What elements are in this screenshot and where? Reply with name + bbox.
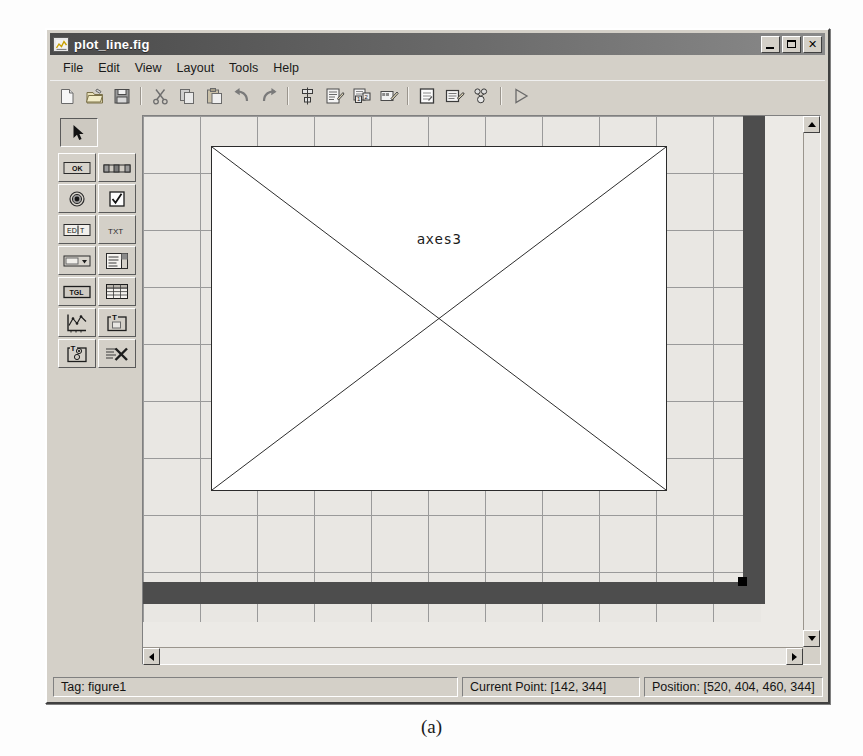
svg-text:OK: OK: [72, 165, 83, 172]
tab-order-editor-icon[interactable]: 1 2: [349, 84, 374, 108]
scrollbar-corner: [803, 647, 820, 664]
figure-icon-glyph: [56, 40, 67, 50]
svg-text:T: T: [112, 313, 117, 322]
new-file-icon[interactable]: [55, 84, 80, 108]
figure-surface[interactable]: axes3: [143, 116, 761, 622]
svg-text:ED: ED: [67, 227, 77, 234]
status-tag-pane: Tag: figure1: [53, 677, 458, 697]
popup-menu-tool[interactable]: [58, 246, 96, 275]
radio-button-tool[interactable]: [58, 184, 96, 213]
menu-file[interactable]: File: [56, 59, 91, 77]
property-inspector-icon[interactable]: [442, 84, 467, 108]
canvas-vertical-scrollbar[interactable]: [803, 116, 820, 647]
matlab-figure-icon: [53, 37, 69, 52]
toggle-button-tool[interactable]: TGL: [58, 277, 96, 306]
button-group-tool[interactable]: T: [58, 339, 96, 368]
status-bar: Tag: figure1 Current Point: [142, 344] P…: [50, 674, 825, 699]
toolbar-separator: [140, 87, 142, 105]
open-folder-icon[interactable]: [82, 84, 107, 108]
svg-text:T: T: [80, 227, 85, 234]
m-file-editor-icon[interactable]: [415, 84, 440, 108]
close-button[interactable]: ✕: [803, 36, 822, 53]
menu-layout[interactable]: Layout: [170, 59, 223, 77]
guide-layout-editor-window: plot_line.fig ✕ File Edit View Layout To…: [45, 28, 830, 704]
minimize-button[interactable]: [761, 36, 780, 53]
redo-arrow-icon[interactable]: [256, 84, 281, 108]
align-objects-icon[interactable]: [295, 84, 320, 108]
svg-text:TXT: TXT: [108, 226, 123, 235]
table-tool[interactable]: [98, 277, 136, 306]
close-icon: ✕: [804, 37, 821, 52]
work-area: OK: [50, 111, 825, 669]
menu-bar: File Edit View Layout Tools Help: [50, 57, 825, 78]
undo-arrow-icon[interactable]: [229, 84, 254, 108]
component-palette: OK: [54, 115, 138, 665]
chevron-right-icon: [792, 653, 797, 661]
svg-text:TGL: TGL: [70, 289, 85, 296]
svg-text:T: T: [71, 344, 76, 353]
status-current-point-pane: Current Point: [142, 344]: [462, 677, 640, 697]
panel-tool[interactable]: T: [98, 308, 136, 337]
select-arrow-tool[interactable]: [60, 118, 98, 147]
title-bar[interactable]: plot_line.fig ✕: [50, 33, 825, 55]
scroll-up-button[interactable]: [803, 116, 820, 133]
toolbar-separator: [287, 87, 289, 105]
listbox-tool[interactable]: [98, 246, 136, 275]
push-button-tool[interactable]: OK: [58, 153, 96, 182]
paste-icon[interactable]: [202, 84, 227, 108]
toolbar: 1 2: [50, 80, 825, 111]
figure-caption: (a): [0, 716, 863, 738]
figure-resize-handle[interactable]: [738, 577, 747, 586]
menu-help[interactable]: Help: [266, 59, 307, 77]
figure-edge-right: [743, 116, 765, 604]
chevron-down-icon: [808, 636, 816, 641]
window-controls: ✕: [761, 36, 823, 53]
static-text-tool[interactable]: TXT: [98, 215, 136, 244]
copy-icon[interactable]: [175, 84, 200, 108]
toolbar-separator: [407, 87, 409, 105]
object-browser-icon[interactable]: [469, 84, 494, 108]
cut-scissors-icon[interactable]: [148, 84, 173, 108]
run-figure-icon[interactable]: [508, 84, 533, 108]
axes-tool[interactable]: [58, 308, 96, 337]
maximize-button[interactable]: [782, 36, 801, 53]
canvas-horizontal-scrollbar[interactable]: [143, 647, 803, 664]
chevron-up-icon: [808, 122, 816, 127]
chevron-left-icon: [149, 653, 154, 661]
window-title: plot_line.fig: [74, 37, 150, 52]
toolbar-separator: [500, 87, 502, 105]
menu-view[interactable]: View: [128, 59, 170, 77]
axes-label: axes3: [212, 231, 666, 247]
figure-canvas-frame: axes3: [142, 115, 821, 665]
cursor-arrow-icon: [71, 124, 87, 142]
activex-control-tool[interactable]: [98, 339, 136, 368]
scroll-left-button[interactable]: [143, 648, 160, 665]
scroll-right-button[interactable]: [786, 648, 803, 665]
axes-placeholder[interactable]: axes3: [211, 146, 667, 491]
slider-tool[interactable]: [98, 153, 136, 182]
menu-tools[interactable]: Tools: [222, 59, 266, 77]
scroll-down-button[interactable]: [803, 630, 820, 647]
status-position-pane: Position: [520, 404, 460, 344]: [644, 677, 823, 697]
checkbox-tool[interactable]: [98, 184, 136, 213]
palette-grid: OK: [58, 153, 138, 368]
figure-canvas-viewport[interactable]: axes3: [143, 116, 803, 647]
menu-editor-icon[interactable]: [322, 84, 347, 108]
figure-edge-bottom: [143, 582, 765, 604]
toolbar-editor-icon[interactable]: [376, 84, 401, 108]
edit-text-tool[interactable]: ED T: [58, 215, 96, 244]
axes-placeholder-cross: [212, 147, 666, 490]
save-disk-icon[interactable]: [109, 84, 134, 108]
menu-edit[interactable]: Edit: [91, 59, 128, 77]
